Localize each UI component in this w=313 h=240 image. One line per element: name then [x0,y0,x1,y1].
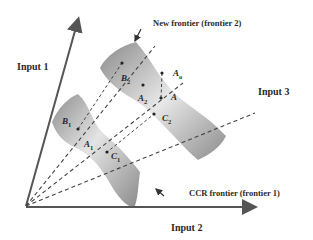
frontier-2-label: New frontier (frontier 2) [153,18,241,28]
frontier-2-pointer-arrow [135,29,141,41]
point-label-a: A [171,92,177,104]
input1-label: Input 1 [17,61,48,72]
input3-label: Input 3 [258,86,289,97]
point-label-ao: Ao [173,68,182,80]
frontier-1-pointer-arrow [156,189,164,196]
frontier-1-label: CCR frontier (frontier 1) [189,188,280,198]
point-label-a1: A1 [84,139,93,151]
input2-label: Input 2 [171,222,202,233]
point-label-c2: C2 [162,113,171,125]
point-label-c1: C1 [111,151,120,163]
point-label-a2: A2 [138,93,147,105]
frontier-1-surface [52,94,140,208]
point-label-b1: B1 [62,116,71,128]
point-label-b2: B2 [121,73,130,85]
diagram-canvas [0,0,313,240]
